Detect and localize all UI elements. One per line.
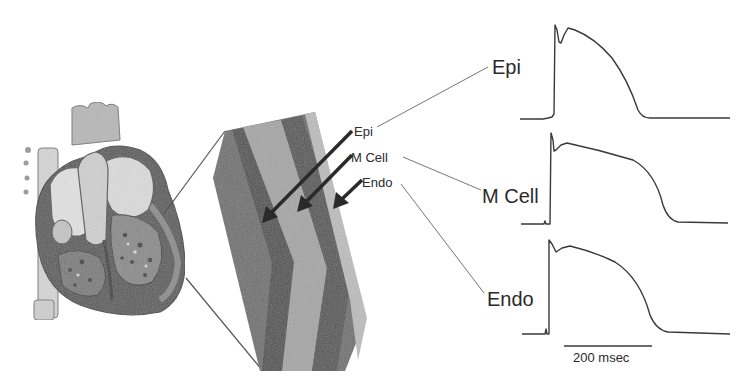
connector-mcell (403, 157, 481, 190)
connector-epi (377, 67, 488, 127)
slab-label-endo: Endo (362, 175, 392, 190)
ventricular-wall-slab (213, 112, 367, 371)
trace-mcell (521, 133, 728, 224)
trace-label-mcell: M Cell (482, 185, 539, 207)
slab-label-epi: Epi (354, 124, 373, 139)
trace-label-epi: Epi (492, 56, 521, 78)
trace-label-endo: Endo (487, 288, 534, 310)
trace-epi (520, 25, 730, 119)
connector-endo (401, 184, 484, 293)
slab-label-mcell: M Cell (351, 150, 388, 165)
trace-endo (522, 240, 730, 334)
figure: Epi M Cell Endo Epi M Cell Endo 200 msec (0, 0, 751, 387)
heart-illustration (24, 102, 186, 320)
scale-bar-label: 200 msec (573, 350, 630, 365)
endo-arrow (341, 180, 362, 200)
